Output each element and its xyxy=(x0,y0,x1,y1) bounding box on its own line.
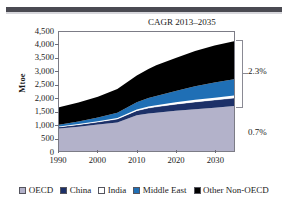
y-tick-mark xyxy=(55,44,59,45)
y-tick-mark xyxy=(55,139,59,140)
y-tick-mark xyxy=(55,112,59,113)
cagr-upper-bracket xyxy=(236,40,243,108)
y-tick-label: 2,500 xyxy=(20,80,54,89)
legend-item-india[interactable]: India xyxy=(98,185,126,195)
legend-label: Other Non-OECD xyxy=(203,185,269,195)
legend-swatch-icon xyxy=(194,187,201,194)
legend-label: OECD xyxy=(29,185,54,195)
chart-legend: OECDChinaIndiaMiddle EastOther Non-OECD xyxy=(0,185,288,195)
y-tick-mark xyxy=(55,71,59,72)
x-tick-label: 2000 xyxy=(77,156,117,165)
legend-label: Middle East xyxy=(143,185,187,195)
legend-swatch-icon xyxy=(19,187,26,194)
cagr-value-oecd: 0.7% xyxy=(248,127,267,137)
figure-container: Mtoe 05001,0001,5002,0002,5003,0003,5004… xyxy=(0,0,288,208)
legend-label: India xyxy=(108,185,127,195)
legend-swatch-icon xyxy=(133,187,140,194)
x-tick-label: 2030 xyxy=(195,156,235,165)
x-tick-label: 2020 xyxy=(156,156,196,165)
x-tick-mark xyxy=(97,150,98,153)
plot-area xyxy=(58,31,235,152)
y-tick-mark xyxy=(55,98,59,99)
area-series-svg xyxy=(59,32,234,151)
y-tick-label: 3,000 xyxy=(20,67,54,76)
x-tick-label: 1990 xyxy=(38,156,78,165)
legend-label: China xyxy=(70,185,92,195)
legend-item-other-non-oecd[interactable]: Other Non-OECD xyxy=(194,185,269,195)
legend-swatch-icon xyxy=(60,187,67,194)
y-tick-label: 3,500 xyxy=(20,53,54,62)
y-tick-label: 2,000 xyxy=(20,94,54,103)
x-tick-label: 2010 xyxy=(117,156,157,165)
x-tick-mark xyxy=(215,150,216,153)
y-tick-mark xyxy=(55,125,59,126)
y-tick-label: 4,000 xyxy=(20,40,54,49)
y-tick-mark xyxy=(55,58,59,59)
y-tick-label: 1,500 xyxy=(20,107,54,116)
y-tick-label: 1,000 xyxy=(20,121,54,130)
cagr-annotation-title: CAGR 2013–2035 xyxy=(148,17,216,27)
y-tick-label: 4,500 xyxy=(20,27,54,36)
legend-item-china[interactable]: China xyxy=(60,185,91,195)
x-tick-mark xyxy=(176,150,177,153)
legend-swatch-icon xyxy=(98,187,105,194)
x-tick-mark xyxy=(137,150,138,153)
y-axis-tick-labels: 05001,0001,5002,0002,5003,0003,5004,0004… xyxy=(18,0,54,208)
y-tick-label: 500 xyxy=(20,134,54,143)
x-tick-mark xyxy=(58,150,59,153)
stacked-area-chart: Mtoe 05001,0001,5002,0002,5003,0003,5004… xyxy=(0,0,288,208)
cagr-value-non-oecd: 2.3% xyxy=(248,66,267,76)
legend-item-middle-east[interactable]: Middle East xyxy=(133,185,186,195)
y-tick-mark xyxy=(55,85,59,86)
legend-item-oecd[interactable]: OECD xyxy=(19,185,53,195)
